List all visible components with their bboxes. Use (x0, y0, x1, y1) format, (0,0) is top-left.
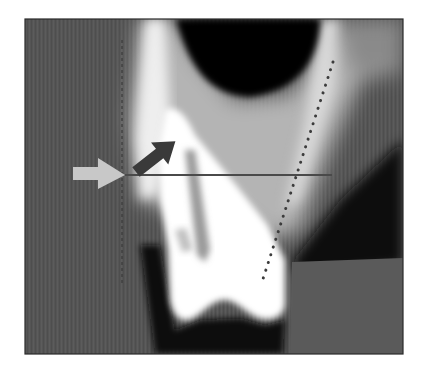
ct-scan-figure (0, 0, 424, 376)
scan-content (25, 19, 403, 354)
soft-tissue-lower-right (290, 258, 403, 354)
ct-scan-image (0, 0, 424, 376)
